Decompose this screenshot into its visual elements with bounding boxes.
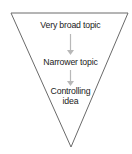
level-controlling-idea-line2: idea	[6, 96, 132, 106]
arrow-narrow-to-idea	[67, 70, 74, 86]
arrow-broad-to-narrow	[67, 34, 74, 55]
level-very-broad-topic: Very broad topic	[6, 20, 132, 30]
level-narrower-topic: Narrower topic	[6, 57, 132, 67]
inverted-triangle	[11, 13, 128, 147]
